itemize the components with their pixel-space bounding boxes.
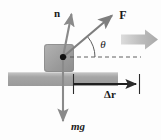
physics-free-body-diagram: n F θ Δr mg — [0, 0, 161, 140]
normal-force-label: n — [54, 7, 60, 19]
angle-arc — [88, 37, 95, 57]
diagram-canvas: n F θ Δr mg — [0, 0, 161, 140]
block — [44, 44, 74, 72]
applied-force-label: F — [119, 8, 126, 22]
pivot-dot — [60, 54, 66, 60]
displacement-label: Δr — [104, 88, 116, 100]
weight-label: mg — [71, 120, 86, 132]
angle-label: θ — [100, 38, 106, 50]
motion-indicator-arrow — [121, 30, 158, 50]
